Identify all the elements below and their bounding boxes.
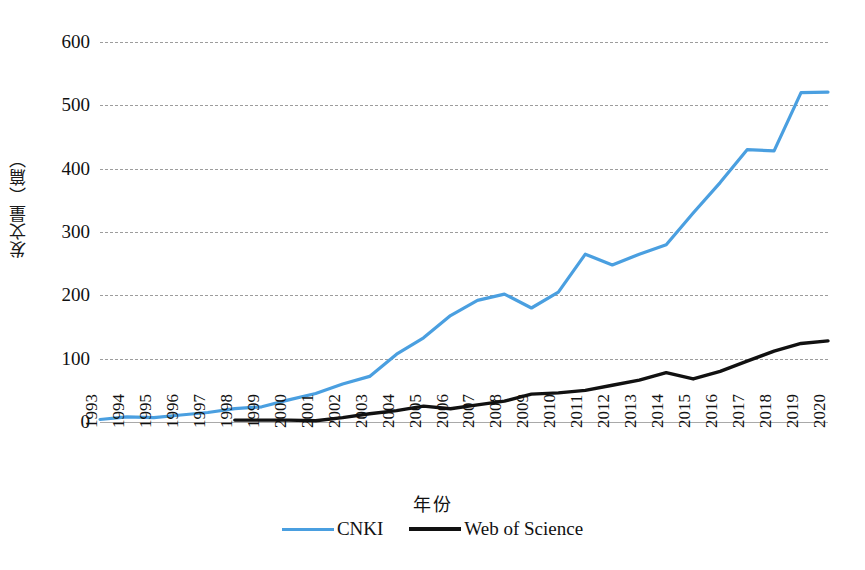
x-tick-label: 2019 (783, 394, 803, 428)
x-tick-label: 2003 (352, 394, 372, 428)
y-axis-tick-labels: 0100200300400500600 (38, 0, 90, 570)
x-tick-label: 1993 (82, 394, 102, 428)
x-tick-label: 2011 (567, 395, 587, 428)
x-tick-label: 1994 (109, 394, 129, 428)
x-tick-label: 1996 (163, 394, 183, 428)
y-tick-label: 300 (62, 221, 91, 243)
y-tick-label: 100 (62, 348, 91, 370)
x-tick-label: 2006 (433, 394, 453, 428)
legend-label: CNKI (337, 518, 383, 540)
x-axis-tick-labels: 1993199419951996199719981999200020012002… (100, 428, 828, 494)
legend-item[interactable]: CNKI (282, 518, 383, 540)
x-tick-label: 2016 (702, 394, 722, 428)
x-tick-label: 1997 (190, 394, 210, 428)
x-tick-label: 1995 (136, 394, 156, 428)
x-tick-label: 2004 (379, 394, 399, 428)
publication-trend-chart: 发文量（篇） 0100200300400500600 1993199419951… (0, 0, 865, 570)
x-tick-label: 2008 (486, 394, 506, 428)
y-tick-label: 200 (62, 284, 91, 306)
x-tick-label: 2018 (756, 394, 776, 428)
legend-label: Web of Science (464, 518, 583, 540)
x-tick-label: 2010 (540, 394, 560, 428)
x-tick-label: 1999 (244, 394, 264, 428)
chart-legend: CNKIWeb of Science (0, 518, 865, 540)
series-lines (100, 42, 828, 422)
x-tick-label: 2000 (271, 394, 291, 428)
x-tick-label: 2012 (594, 394, 614, 428)
x-tick-label: 2015 (675, 394, 695, 428)
x-tick-label: 2014 (648, 394, 668, 428)
x-tick-label: 2017 (729, 394, 749, 428)
x-tick-label: 1998 (217, 394, 237, 428)
plot-area (100, 42, 828, 422)
legend-item[interactable]: Web of Science (409, 518, 583, 540)
x-tick-label: 2013 (621, 394, 641, 428)
x-tick-label: 2009 (513, 394, 533, 428)
legend-swatch-icon (282, 528, 334, 531)
x-tick-label: 2005 (406, 394, 426, 428)
x-tick-label: 2007 (459, 394, 479, 428)
x-tick-label: 2001 (298, 394, 318, 428)
x-axis-title: 年份 (0, 490, 865, 516)
x-tick-label: 2002 (325, 394, 345, 428)
legend-swatch-icon (409, 527, 461, 531)
y-tick-label: 400 (62, 158, 91, 180)
y-tick-label: 600 (62, 31, 91, 53)
x-tick-label: 2020 (810, 394, 830, 428)
y-tick-label: 500 (62, 94, 91, 116)
